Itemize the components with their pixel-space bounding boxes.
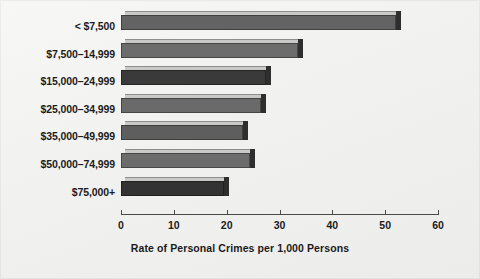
category-label: < $7,500 <box>12 21 115 31</box>
bar-side-face <box>243 121 248 140</box>
bar-front-face <box>121 43 298 58</box>
bar-side-face <box>298 39 303 58</box>
x-axis-tick-label: 10 <box>168 219 180 231</box>
bar <box>121 11 401 30</box>
bar <box>121 149 255 168</box>
category-label: $25,000–34,999 <box>12 104 115 114</box>
category-label: $50,000–74,999 <box>12 159 115 169</box>
plot-area: Rate of Personal Crimes per 1,000 Person… <box>0 0 480 279</box>
bar-side-face <box>396 11 401 30</box>
x-axis-tick <box>438 210 439 215</box>
bar-front-face <box>121 70 266 85</box>
chart-figure: Rate of Personal Crimes per 1,000 Person… <box>0 0 480 279</box>
x-axis-tick-label: 20 <box>221 219 233 231</box>
bar <box>121 39 303 58</box>
bar-front-face <box>121 181 224 196</box>
x-axis-title: Rate of Personal Crimes per 1,000 Person… <box>0 242 480 254</box>
x-axis-tick <box>121 210 122 215</box>
bar-side-face <box>250 149 255 168</box>
category-label: $15,000–24,999 <box>12 76 115 86</box>
x-axis-tick-label: 40 <box>326 219 338 231</box>
bar-front-face <box>121 15 396 30</box>
category-label: $35,000–49,999 <box>12 131 115 141</box>
bar <box>121 94 266 113</box>
x-axis-tick <box>385 210 386 215</box>
x-axis-tick <box>227 210 228 215</box>
x-axis-tick-label: 0 <box>118 219 124 231</box>
bar-front-face <box>121 125 243 140</box>
bar <box>121 177 229 196</box>
bar-front-face <box>121 98 261 113</box>
x-axis-tick-label: 60 <box>432 219 444 231</box>
x-axis-tick <box>174 210 175 215</box>
bar <box>121 121 248 140</box>
x-axis-tick <box>332 210 333 215</box>
x-axis-tick <box>280 210 281 215</box>
bar-front-face <box>121 153 250 168</box>
bar-side-face <box>266 66 271 85</box>
x-axis-tick-label: 30 <box>274 219 286 231</box>
bar <box>121 66 271 85</box>
bar-side-face <box>261 94 266 113</box>
bar-side-face <box>224 177 229 196</box>
category-label: $7,500–14,999 <box>12 49 115 59</box>
x-axis-tick-label: 50 <box>379 219 391 231</box>
category-label: $75,000+ <box>12 187 115 197</box>
